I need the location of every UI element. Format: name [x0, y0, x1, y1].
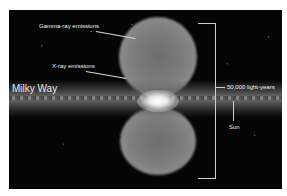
bracket-bottom: [198, 178, 215, 179]
bracket-top: [198, 23, 215, 24]
scale-connector: [216, 87, 225, 88]
scale-label: 50,000 light-years: [227, 84, 275, 90]
bracket-vertical: [215, 23, 216, 179]
x-ray-label: X-ray emissions: [52, 63, 95, 69]
fermi-bubbles-image: [9, 10, 282, 189]
sun-marker-line: [233, 101, 234, 121]
galactic-center: [137, 90, 179, 112]
sun-label: Sun: [229, 124, 240, 130]
gamma-ray-label: Gamma-ray emissions: [39, 23, 99, 29]
milky-way-label: Milky Way: [12, 84, 57, 94]
